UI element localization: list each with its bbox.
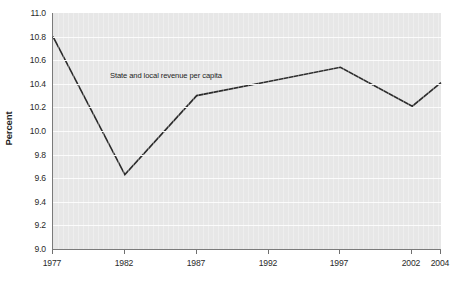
plot-texture-line (78, 13, 79, 249)
plot-texture-line (108, 13, 109, 249)
plot-texture-line (183, 13, 184, 249)
plot-texture-line (158, 13, 159, 249)
plot-texture-line (248, 13, 249, 249)
plot-texture-line (403, 13, 404, 249)
plot-texture-line (93, 13, 94, 249)
x-axis-tick-label: 2002 (402, 258, 421, 268)
plot-texture-line (238, 13, 239, 249)
plot-texture-line (408, 13, 409, 249)
plot-texture-line (118, 13, 119, 249)
plot-texture-line (83, 13, 84, 249)
plot-texture-line (163, 13, 164, 249)
x-axis-tick (339, 250, 340, 254)
plot-texture-line (98, 13, 99, 249)
y-axis-tick-label: 9.8 (18, 150, 46, 160)
plot-texture-line (203, 13, 204, 249)
plot-texture-line (128, 13, 129, 249)
plot-texture-line (308, 13, 309, 249)
plot-texture-line (418, 13, 419, 249)
y-axis-tick-label: 9.4 (18, 197, 46, 207)
plot-texture-line (168, 13, 169, 249)
x-axis-tick-label: 1997 (330, 258, 349, 268)
plot-texture-line (223, 13, 224, 249)
y-axis-tick-label: 10.0 (18, 126, 46, 136)
plot-texture-line (133, 13, 134, 249)
plot-texture-line (63, 13, 64, 249)
plot-texture-line (383, 13, 384, 249)
plot-texture-line (143, 13, 144, 249)
x-axis-tick (411, 250, 412, 254)
y-axis-tick-label: 9.2 (18, 220, 46, 230)
x-axis-tick (440, 250, 441, 254)
x-axis-tick-label: 1987 (187, 258, 206, 268)
plot-texture-line (193, 13, 194, 249)
x-axis-tick (268, 250, 269, 254)
plot-texture-line (88, 13, 89, 249)
y-axis-tick-label: 9.0 (18, 244, 46, 254)
plot-texture-line (233, 13, 234, 249)
plot-texture-line (313, 13, 314, 249)
plot-texture-line (438, 13, 439, 249)
y-axis-tick-labels: 11.010.810.610.410.210.09.89.69.49.29.0 (18, 0, 46, 293)
plot-texture-line (328, 13, 329, 249)
plot-texture-line (428, 13, 429, 249)
plot-texture-line (388, 13, 389, 249)
x-axis-tick-label: 1982 (115, 258, 134, 268)
plot-texture-line (253, 13, 254, 249)
plot-texture-line (433, 13, 434, 249)
plot-texture-line (423, 13, 424, 249)
plot-texture-line (208, 13, 209, 249)
plot-texture-line (303, 13, 304, 249)
plot-texture-line (268, 13, 269, 249)
plot-texture-line (373, 13, 374, 249)
plot-texture-line (393, 13, 394, 249)
plot-texture-line (263, 13, 264, 249)
plot-texture-line (123, 13, 124, 249)
plot-texture-line (343, 13, 344, 249)
x-axis-tick-label: 2004 (431, 258, 450, 268)
plot-texture-line (243, 13, 244, 249)
plot-texture-line (398, 13, 399, 249)
y-axis-tick-label: 9.6 (18, 173, 46, 183)
y-axis-tick-label: 10.6 (18, 55, 46, 65)
plot-texture-line (298, 13, 299, 249)
plot-texture-line (68, 13, 69, 249)
x-axis-tick (52, 250, 53, 254)
plot-texture-line (318, 13, 319, 249)
x-axis-tick-label: 1992 (259, 258, 278, 268)
plot-texture-line (218, 13, 219, 249)
plot-texture-line (138, 13, 139, 249)
plot-texture-line (358, 13, 359, 249)
plot-texture-line (173, 13, 174, 249)
plot-area (52, 13, 441, 250)
plot-texture-line (178, 13, 179, 249)
y-axis-tick-label: 10.2 (18, 102, 46, 112)
line-chart-figure: Percent 11.010.810.610.410.210.09.89.69.… (0, 0, 463, 293)
plot-texture-line (113, 13, 114, 249)
plot-texture-line (58, 13, 59, 249)
plot-texture-line (153, 13, 154, 249)
plot-texture-line (368, 13, 369, 249)
plot-texture-line (103, 13, 104, 249)
series-annotation-label: State and local revenue per capita (110, 71, 222, 80)
x-axis-tick-label: 1977 (43, 258, 62, 268)
y-axis-tick-label: 11.0 (18, 8, 46, 18)
plot-texture-line (198, 13, 199, 249)
plot-texture-line (73, 13, 74, 249)
plot-texture-line (353, 13, 354, 249)
plot-texture-line (333, 13, 334, 249)
plot-texture-line (323, 13, 324, 249)
plot-texture-line (363, 13, 364, 249)
plot-texture-line (188, 13, 189, 249)
plot-texture-line (258, 13, 259, 249)
plot-texture-line (288, 13, 289, 249)
y-axis-title: Percent (0, 96, 16, 160)
plot-texture-line (228, 13, 229, 249)
plot-texture-line (293, 13, 294, 249)
plot-texture-line (278, 13, 279, 249)
x-axis-tick (124, 250, 125, 254)
plot-texture-line (413, 13, 414, 249)
y-axis-title-label: Percent (3, 111, 14, 145)
x-axis-tick (196, 250, 197, 254)
plot-texture-line (338, 13, 339, 249)
